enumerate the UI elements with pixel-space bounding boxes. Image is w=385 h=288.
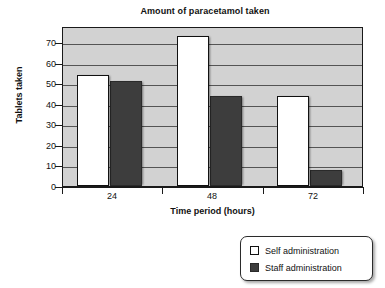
y-tick-mark bbox=[55, 125, 62, 126]
x-tick-mark bbox=[162, 187, 163, 194]
y-tick-mark bbox=[55, 64, 62, 65]
gridline bbox=[63, 65, 362, 66]
x-tick-label: 48 bbox=[192, 192, 232, 201]
bar-self-24 bbox=[77, 75, 109, 186]
y-tick-label: 20 bbox=[30, 142, 56, 151]
y-tick-label: 70 bbox=[30, 39, 56, 48]
chart-title: Amount of paracetamol taken bbox=[40, 6, 370, 16]
x-tick-label: 24 bbox=[92, 192, 132, 201]
x-tick-mark bbox=[363, 187, 364, 194]
y-tick-mark bbox=[55, 84, 62, 85]
y-tick-mark bbox=[55, 146, 62, 147]
y-tick-label: 30 bbox=[30, 121, 56, 130]
x-axis-line bbox=[55, 187, 363, 188]
y-tick-label: 40 bbox=[30, 101, 56, 110]
x-tick-mark bbox=[263, 187, 264, 194]
y-tick-mark bbox=[55, 105, 62, 106]
y-axis-title: Tablets taken bbox=[14, 60, 24, 130]
bar-self-72 bbox=[277, 96, 309, 186]
bar-staff-48 bbox=[210, 96, 242, 186]
y-tick-label: 10 bbox=[30, 162, 56, 171]
y-tick-mark bbox=[55, 166, 62, 167]
y-tick-label: 50 bbox=[30, 80, 56, 89]
legend-label: Staff administration bbox=[265, 263, 342, 273]
legend-label: Self administration bbox=[265, 246, 339, 256]
legend-swatch-self-icon bbox=[250, 246, 259, 255]
plot-area bbox=[62, 27, 363, 187]
x-axis-title: Time period (hours) bbox=[62, 206, 363, 216]
bar-staff-24 bbox=[110, 81, 142, 186]
chart-legend: Self administrationStaff administration bbox=[240, 236, 373, 281]
legend-swatch-staff-icon bbox=[250, 263, 259, 272]
gridline bbox=[63, 44, 362, 45]
y-tick-label: 60 bbox=[30, 60, 56, 69]
bar-chart-figure: Amount of paracetamol taken Tablets take… bbox=[0, 0, 385, 288]
x-tick-mark bbox=[62, 187, 63, 194]
bar-staff-72 bbox=[310, 170, 342, 186]
x-tick-label: 72 bbox=[293, 192, 333, 201]
y-tick-mark bbox=[55, 43, 62, 44]
legend-item-self[interactable]: Self administration bbox=[250, 242, 372, 259]
bar-self-48 bbox=[177, 36, 209, 186]
y-tick-label: 0 bbox=[30, 183, 56, 192]
legend-item-staff[interactable]: Staff administration bbox=[250, 259, 372, 276]
